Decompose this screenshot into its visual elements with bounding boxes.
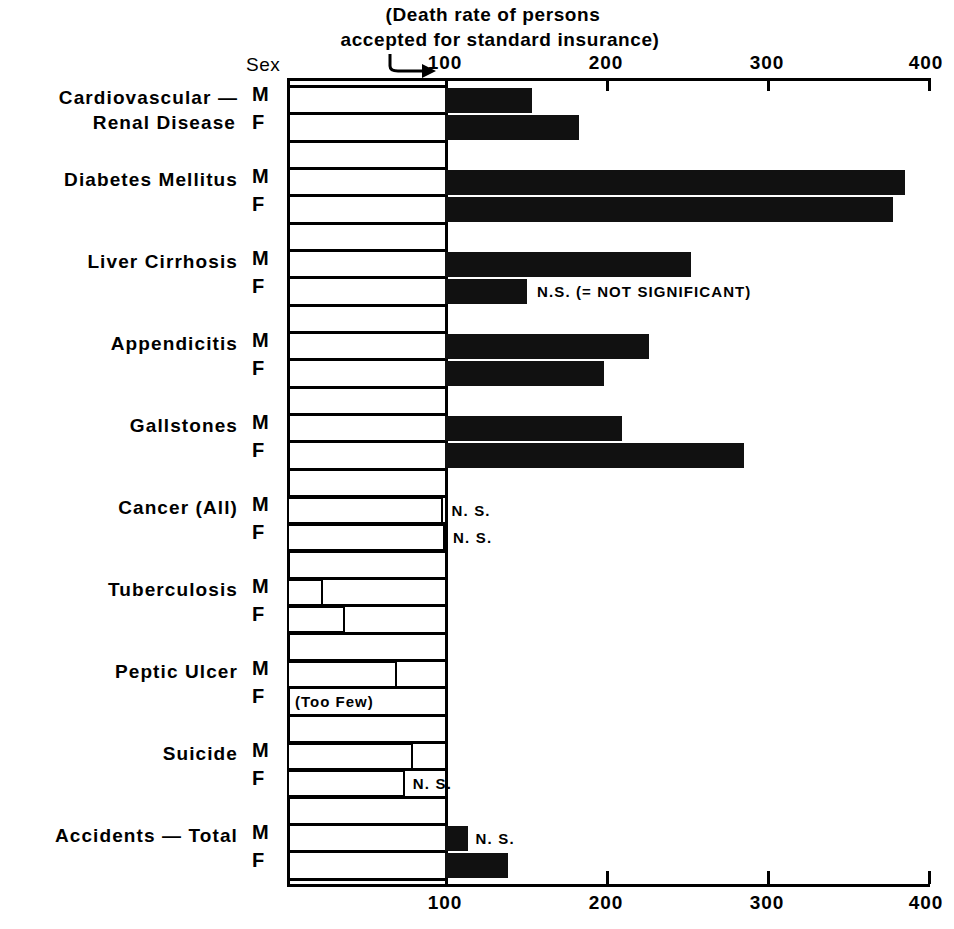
too-few-note: (Too Few)	[295, 693, 374, 710]
bar-m	[445, 334, 649, 359]
axis-bottom-tick-300: 300	[750, 892, 785, 914]
sex-mark-f: F	[252, 849, 265, 872]
row-rule-bottom	[287, 304, 448, 307]
bar-f	[445, 361, 604, 386]
caption-line-2: accepted for standard insurance)	[258, 27, 728, 52]
caption-line-1: (Death rate of persons	[258, 2, 728, 27]
chart-caption: (Death rate of persons accepted for stan…	[258, 2, 728, 52]
sex-mark-f: F	[252, 767, 265, 790]
sex-mark-f: F	[252, 275, 265, 298]
sex-mark-m: M	[252, 739, 269, 762]
category-label: Suicide	[163, 741, 238, 766]
row-rule-mid	[287, 112, 448, 115]
sex-mark-m: M	[252, 821, 269, 844]
row-rule-bottom	[287, 386, 448, 389]
sex-mark-f: F	[252, 521, 265, 544]
row-rule-top	[287, 823, 448, 826]
row-rule-mid	[287, 440, 448, 443]
bar-m	[445, 826, 468, 851]
sex-mark-m: M	[252, 329, 269, 352]
bar-f	[445, 853, 508, 878]
category-label-line-2: Renal Disease	[59, 110, 238, 135]
sex-mark-f: F	[252, 193, 265, 216]
row-rule-bottom	[287, 222, 448, 225]
row-rule-top	[287, 249, 448, 252]
sex-mark-f: F	[252, 439, 265, 462]
sex-mark-f: F	[252, 357, 265, 380]
row-rule-top	[287, 413, 448, 416]
category-label-line-1: Suicide	[163, 743, 238, 764]
category-label-line-1: Peptic Ulcer	[115, 661, 238, 682]
axis-top-tick-200: 200	[589, 52, 624, 74]
row-rule-top	[287, 167, 448, 170]
axis-bottom-tick-400: 400	[909, 892, 944, 914]
category-label-line-1: Cancer (All)	[118, 497, 238, 518]
axis-bottom-rule	[287, 884, 930, 887]
sex-mark-m: M	[252, 83, 269, 106]
axis-bottom-tick-mark-300	[767, 871, 770, 884]
axis-top-tick-400: 400	[909, 52, 944, 74]
category-label-line-1: Appendicitis	[111, 333, 238, 354]
not-significant-note: N. S.	[413, 775, 452, 792]
row-rule-mid	[287, 850, 448, 853]
category-label: Peptic Ulcer	[115, 659, 238, 684]
row-rule-mid	[287, 194, 448, 197]
axis-top-tick-300: 300	[750, 52, 785, 74]
row-rule-bottom	[287, 878, 448, 881]
sex-mark-m: M	[252, 247, 269, 270]
not-significant-note: N. S.	[451, 502, 490, 519]
bar-f	[445, 279, 527, 304]
bar-f	[287, 524, 445, 551]
bar-f	[445, 115, 579, 140]
row-rule-bottom	[287, 714, 448, 717]
sex-mark-m: M	[252, 657, 269, 680]
category-label-line-1: Cardiovascular —	[59, 87, 238, 108]
bar-f	[287, 606, 345, 633]
row-rule-bottom	[287, 468, 448, 471]
category-label-line-1: Tuberculosis	[108, 579, 238, 600]
sex-mark-f: F	[252, 111, 265, 134]
bar-m	[287, 579, 323, 606]
sex-mark-m: M	[252, 411, 269, 434]
not-significant-note: N. S.	[476, 830, 515, 847]
row-rule-top	[287, 85, 448, 88]
sex-mark-m: M	[252, 493, 269, 516]
bar-f	[445, 443, 744, 468]
sex-mark-m: M	[252, 165, 269, 188]
not-significant-note: N. S.	[453, 529, 492, 546]
bar-m	[287, 497, 443, 524]
axis-top-tick-mark-300	[767, 78, 770, 91]
category-label-line-1: Gallstones	[130, 415, 238, 436]
sex-mark-f: F	[252, 685, 265, 708]
chart-root: (Death rate of persons accepted for stan…	[0, 0, 954, 929]
category-label: Cardiovascular —Renal Disease	[59, 85, 238, 135]
category-label: Liver Cirrhosis	[87, 249, 238, 274]
axis-top-tick-mark-400	[928, 78, 931, 91]
row-rule-bottom	[287, 140, 448, 143]
axis-bottom-tick-mark-400	[928, 871, 931, 884]
axis-bottom-tick-mark-200	[606, 871, 609, 884]
axis-bottom-tick-100: 100	[428, 892, 463, 914]
sex-mark-f: F	[252, 603, 265, 626]
bar-f	[445, 197, 893, 222]
row-rule-top	[287, 331, 448, 334]
bar-m	[445, 88, 532, 113]
row-rule-mid	[287, 358, 448, 361]
not-significant-legend: N.S. (= NOT SIGNIFICANT)	[537, 283, 751, 300]
category-label-line-1: Diabetes Mellitus	[64, 169, 238, 190]
bar-m	[445, 170, 905, 195]
category-label: Appendicitis	[111, 331, 238, 356]
sex-column-header: Sex	[246, 54, 280, 76]
axis-top-tick-100: 100	[428, 52, 463, 74]
bar-m	[445, 416, 622, 441]
category-label-line-1: Liver Cirrhosis	[87, 251, 238, 272]
category-label: Diabetes Mellitus	[64, 167, 238, 192]
category-label: Tuberculosis	[108, 577, 238, 602]
category-label: Gallstones	[130, 413, 238, 438]
category-label: Cancer (All)	[118, 495, 238, 520]
bar-m	[287, 743, 413, 770]
category-label-line-1: Accidents — Total	[55, 825, 238, 846]
category-label: Accidents — Total	[55, 823, 238, 848]
bar-m	[445, 252, 691, 277]
bar-m	[287, 661, 397, 688]
